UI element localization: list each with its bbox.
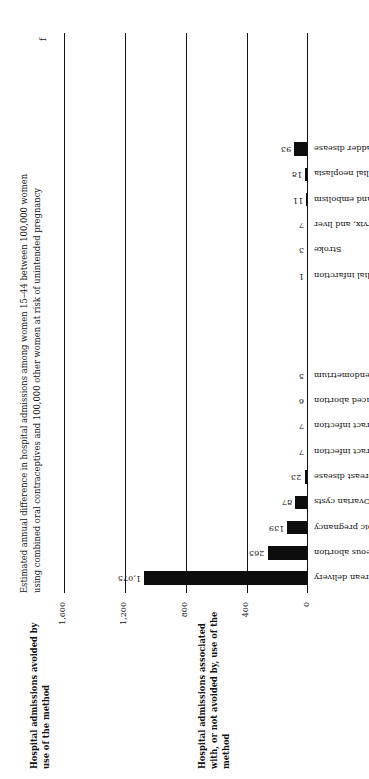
bar-value-label: 18: [292, 170, 302, 179]
figure-page: f Hospital admissions avoided by use of …: [0, 0, 369, 779]
bar-chart-figure: f Hospital admissions avoided by use of …: [0, 0, 369, 779]
bar-value-label: 1: [299, 272, 304, 281]
bar-value-label: 87: [282, 498, 292, 507]
axis-baseline: [307, 33, 308, 593]
group-header-avoided: Hospital admissions avoided by use of th…: [28, 619, 52, 769]
bar-value-label: 23: [291, 473, 301, 482]
bar-value-label: 7: [299, 422, 304, 431]
category-label: Complications of induced abortion: [314, 396, 369, 406]
category-label: Myocardial infarction: [314, 271, 369, 281]
group-header-associated: Hospital admissions associated with, or …: [196, 609, 232, 769]
category-label: Ectopic pregnancy: [314, 523, 369, 533]
bar-value-label: 265: [249, 549, 264, 558]
marginal-footnote-mark: f: [38, 38, 48, 41]
tick-label-1200: 1,200: [119, 602, 128, 625]
tick-label-1600: 1,600: [58, 602, 67, 625]
bar-value-label: 139: [269, 524, 284, 533]
category-label: Venous thrombosis and embolism: [314, 195, 369, 205]
category-label: Cesarean delivery: [314, 573, 369, 583]
tick-label-0: 0: [302, 602, 311, 607]
bar-value-label: 7: [299, 448, 304, 457]
tick-label-800: 800: [180, 602, 189, 617]
category-label: Urinary tract infection: [314, 421, 369, 431]
plot-area: 04008001,2001,600 1,07526513987237765137…: [64, 33, 308, 593]
category-label: Spontaneous abortion: [314, 548, 369, 558]
bar: [144, 572, 308, 586]
category-label: Cervical intraepithelial neoplasia: [314, 169, 369, 179]
bar-value-label: 6: [299, 397, 304, 406]
bars-layer: 1,07526513987237765137111893: [64, 33, 308, 593]
bar: [287, 521, 308, 535]
plot-inner: 04008001,2001,600 1,07526513987237765137…: [64, 33, 308, 593]
category-label: Benign breast disease: [314, 472, 369, 482]
tick-label-400: 400: [241, 602, 250, 617]
category-label: Ovarian cysts: [314, 497, 369, 507]
bar: [294, 142, 308, 156]
category-label: Invasive cancers of breast, cervix, and …: [314, 220, 369, 230]
category-label: Gallbladder disease: [314, 144, 369, 154]
category-label: Upper genital tract infection: [314, 447, 369, 457]
bar-value-label: 7: [299, 221, 304, 230]
chart-axis-title: Estimated annual difference in hospital …: [18, 173, 43, 593]
bar-value-label: 11: [293, 196, 303, 205]
bar: [268, 546, 308, 560]
bar: [295, 496, 308, 510]
bar-value-label: 3: [299, 246, 304, 255]
bar-value-label: 93: [281, 145, 291, 154]
category-label: Invasive cancers of ovary and endometriu…: [314, 371, 369, 381]
category-label: Stroke: [314, 245, 342, 255]
rotated-figure-stage: f Hospital admissions avoided by use of …: [0, 0, 369, 779]
bar-value-label: 1,075: [118, 574, 141, 583]
bar-value-label: 5: [299, 372, 304, 381]
